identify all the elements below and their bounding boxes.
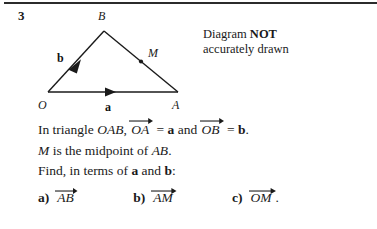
line1-prefix: In triangle: [38, 122, 97, 137]
body-line-3: Find, in terms of a and b:: [38, 161, 368, 182]
vector-label-a: a: [105, 100, 111, 114]
answer-part-a-label: a): [38, 190, 49, 205]
line1-eq1: =: [153, 122, 167, 137]
answer-part-c-period: .: [276, 190, 279, 205]
triangle-name: OAB: [97, 122, 123, 137]
answer-parts-row: a)AB b)AM c)OM.: [38, 190, 368, 206]
vector-AM-text: AM: [153, 190, 173, 205]
vector-OB-text: OB: [202, 122, 220, 137]
body-line-1: In triangle OAB, OA = a and OB = b.: [38, 120, 368, 141]
answer-part-b-label: b): [133, 190, 145, 205]
vector-a-arrowhead: [105, 88, 116, 97]
worksheet-page: 3 O: [0, 0, 377, 229]
line3-prefix: Find, in terms of: [38, 163, 131, 178]
body-line-2: M is the midpoint of AB.: [38, 141, 368, 162]
line3-colon: :: [172, 163, 176, 178]
vector-label-b: b: [57, 51, 64, 65]
vertex-label-O: O: [38, 98, 47, 112]
vector-OM-inline: OM: [250, 190, 273, 206]
not-accurately-drawn-note: Diagram NOT accurately drawn: [203, 27, 289, 58]
vector-AB-text: AB: [57, 190, 74, 205]
note-prefix: Diagram: [203, 27, 250, 41]
line1-period: .: [246, 122, 249, 137]
line2-period: .: [168, 143, 171, 158]
segment-AB: AB: [152, 143, 169, 158]
triangle-edges: [48, 31, 178, 92]
note-line-1: Diagram NOT: [203, 27, 289, 42]
line1-eq2: =: [224, 122, 238, 137]
answer-part-a: a)AB: [38, 190, 78, 206]
midpoint-name: M: [38, 143, 49, 158]
note-line-2: accurately drawn: [203, 42, 289, 57]
vector-OB-inline: OB: [201, 120, 221, 141]
question-body: In triangle OAB, OA = a and OB = b. M is…: [38, 120, 368, 182]
vector-b-arrowhead: [69, 59, 82, 73]
midpoint-label-M: M: [147, 46, 159, 60]
vertex-label-A: A: [171, 98, 180, 112]
answer-part-b: b)AM: [133, 190, 177, 206]
midpoint-dot: [139, 59, 143, 63]
bold-vector-b-1: b: [238, 122, 246, 137]
vector-OM-text: OM: [251, 190, 272, 205]
vector-AM-inline: AM: [152, 190, 174, 206]
vector-triangle-diagram: O A B M a b: [0, 4, 200, 116]
vector-OA-inline: OA: [130, 120, 150, 141]
note-not-emphasis: NOT: [250, 27, 277, 41]
line2-text: is the midpoint of: [49, 143, 151, 158]
vertex-label-B: B: [98, 9, 106, 23]
answer-part-c: c)OM.: [232, 190, 279, 206]
vector-OA-text: OA: [131, 122, 149, 137]
line1-and: and: [174, 122, 200, 137]
line1-comma: ,: [123, 122, 130, 137]
bold-vector-b-2: b: [164, 163, 172, 178]
line3-and: and: [138, 163, 164, 178]
vector-AB-inline: AB: [56, 190, 75, 206]
answer-part-c-label: c): [232, 190, 243, 205]
